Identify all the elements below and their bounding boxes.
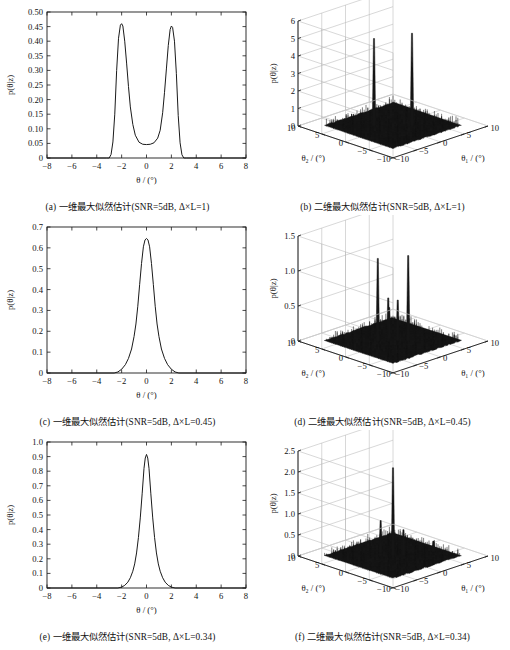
panel-c-caption: (c) 一维最大似然估计(SNR=5dB, Δ×L=0.45) <box>0 414 255 428</box>
y-tick-label: 0.6 <box>32 243 43 253</box>
y-tick-label: 0.4 <box>32 525 43 535</box>
surface-spike <box>410 33 413 126</box>
panel-f-caption: (f) 二维最大似然估计(SNR=5dB, Δ×L=0.34) <box>255 629 510 643</box>
x-tick-label: −8 <box>42 591 51 601</box>
theta2-tick-label: 5 <box>315 130 319 140</box>
panel-b-svg: 0123456p(θ|z)−10−50510−10−50510θ₂ / (°)θ… <box>255 0 510 196</box>
theta2-tick-label: 10 <box>287 338 296 348</box>
surface-spike <box>396 300 399 341</box>
theta2-tick-label: 5 <box>315 345 319 355</box>
panel-e: −8−6−4−20246800.10.20.30.40.50.60.70.80.… <box>0 430 255 645</box>
x-tick-label: 2 <box>169 161 173 171</box>
panel-f: 00.51.01.52.02.5p(θ|z)−10−50510−10−50510… <box>255 430 510 645</box>
y-axis-label: p(θ|z) <box>5 290 15 310</box>
theta2-tick-label: 0 <box>339 353 343 363</box>
theta2-tick-label: −5 <box>358 576 367 586</box>
theta1-tick-label: 5 <box>467 560 471 570</box>
panel-f-plot: 00.51.01.52.02.5p(θ|z)−10−50510−10−50510… <box>255 430 510 626</box>
panel-e-caption: (e) 一维最大似然估计(SNR=5dB, Δ×L=0.34) <box>0 629 255 643</box>
data-curve <box>47 24 246 158</box>
panel-d-plot: 00.51.01.5p(θ|z)−10−50510−10−50510θ₂ / (… <box>255 215 510 411</box>
panel-b-caption: (b) 二维最大似然估计(SNR=5dB, Δ×L=1) <box>255 199 510 213</box>
theta1-tick-label: 10 <box>491 338 500 348</box>
figure-grid: −8−6−4−20246800.050.100.150.200.250.300.… <box>0 0 510 650</box>
y-tick-label: 0.7 <box>32 481 43 491</box>
y-tick-label: 0.3 <box>32 539 43 549</box>
x-tick-label: 6 <box>219 376 224 386</box>
surface-spike <box>407 256 410 341</box>
z-axis-label: p(θ|z) <box>268 278 278 298</box>
theta1-tick-label: −5 <box>419 576 428 586</box>
y-axis-label: p(θ|z) <box>5 75 15 95</box>
panel-b: 0123456p(θ|z)−10−50510−10−50510θ₂ / (°)θ… <box>255 0 510 215</box>
theta1-tick-label: 0 <box>443 568 447 578</box>
theta1-tick-label: 10 <box>491 553 500 563</box>
z-tick <box>298 55 301 56</box>
x-axis-label: θ / (°) <box>136 175 157 185</box>
x-tick-label: 4 <box>194 161 199 171</box>
y-tick-label: 0.7 <box>32 222 43 232</box>
theta2-tick-label: −5 <box>358 361 367 371</box>
y-tick-label: 0.1 <box>32 568 43 578</box>
y-tick-label: 0.6 <box>32 495 43 505</box>
data-curve <box>47 238 246 373</box>
panel-d: 00.51.01.5p(θ|z)−10−50510−10−50510θ₂ / (… <box>255 215 510 430</box>
z-tick-label: 4 <box>291 51 296 61</box>
y-tick-label: 0.2 <box>32 554 43 564</box>
y-tick-label: 0.15 <box>28 109 43 119</box>
z-tick <box>298 305 301 306</box>
z-tick <box>298 73 301 74</box>
z-tick <box>298 20 301 21</box>
z-axis-label: p(θ|z) <box>268 63 278 83</box>
x-tick-label: −2 <box>117 161 126 171</box>
panel-a: −8−6−4−20246800.050.100.150.200.250.300.… <box>0 0 255 215</box>
z-tick-label: 0.5 <box>284 530 295 540</box>
surface-spike <box>376 258 379 341</box>
z-tick <box>298 534 301 535</box>
z-tick <box>298 108 301 109</box>
x-tick-label: −4 <box>92 161 102 171</box>
theta2-tick-label: 10 <box>287 123 296 133</box>
y-tick-label: 0.8 <box>32 466 43 476</box>
y-tick-label: 0 <box>39 368 43 378</box>
x-tick-label: 6 <box>219 591 224 601</box>
theta1-axis-label: θ₁ / (°) <box>461 583 485 593</box>
x-tick-label: 4 <box>194 376 199 386</box>
theta1-tick-label: −5 <box>419 361 428 371</box>
y-tick-label: 0.5 <box>32 264 43 274</box>
x-tick-label: −2 <box>117 376 126 386</box>
z-tick-label: 2 <box>291 86 295 96</box>
z-tick-label: 1.0 <box>284 509 295 519</box>
theta1-tick-label: 5 <box>467 130 471 140</box>
theta2-tick-label: −10 <box>377 584 390 594</box>
panel-f-svg: 00.51.01.52.02.5p(θ|z)−10−50510−10−50510… <box>255 430 510 626</box>
theta2-tick-label: 5 <box>315 560 319 570</box>
z-tick-label: 6 <box>291 16 296 26</box>
y-tick-label: 0.1 <box>32 347 43 357</box>
plot-frame <box>47 227 246 373</box>
z-tick <box>298 471 301 472</box>
plot-frame <box>47 12 246 158</box>
z-tick <box>298 513 301 514</box>
theta1-axis-label: θ₁ / (°) <box>461 368 485 378</box>
y-tick-label: 0.35 <box>28 51 43 61</box>
theta1-tick-label: 0 <box>443 138 447 148</box>
panel-a-caption: (a) 一维最大似然估计(SNR=5dB, Δ×L=1) <box>0 199 255 213</box>
x-tick-label: −6 <box>67 376 77 386</box>
y-tick-label: 0 <box>39 583 43 593</box>
z-tick <box>298 492 301 493</box>
panel-a-svg: −8−6−4−20246800.050.100.150.200.250.300.… <box>0 0 255 196</box>
y-axis-label: p(θ|z) <box>5 505 15 525</box>
theta2-tick-label: 10 <box>287 553 296 563</box>
theta1-tick-label: 10 <box>491 123 500 133</box>
y-tick-label: 0.30 <box>28 65 43 75</box>
x-tick-label: 4 <box>194 591 199 601</box>
theta2-axis-label: θ₂ / (°) <box>301 583 325 593</box>
z-tick-label: 0.5 <box>284 301 295 311</box>
panel-e-svg: −8−6−4−20246800.10.20.30.40.50.60.70.80.… <box>0 430 255 626</box>
y-tick-label: 0.5 <box>32 510 43 520</box>
y-tick-label: 0.25 <box>28 80 43 90</box>
panel-a-plot: −8−6−4−20246800.050.100.150.200.250.300.… <box>0 0 255 196</box>
theta2-axis-label: θ₂ / (°) <box>301 153 325 163</box>
x-tick-label: −4 <box>92 376 102 386</box>
